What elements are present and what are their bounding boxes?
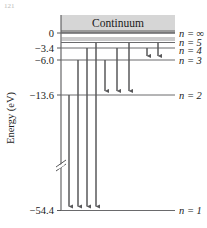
y-axis-title: Energy (eV) <box>5 92 17 144</box>
level-label-n-3: n = 3 <box>179 55 202 66</box>
level-label-n-2: n = 2 <box>179 90 203 101</box>
tick-label-0: 0 <box>49 28 54 39</box>
axis-ticks <box>57 33 61 211</box>
transition-arrows <box>69 43 158 207</box>
tick-label-minus-54-4: −54.4 <box>30 205 55 216</box>
tick-label-minus-6-0: −6.0 <box>35 55 54 66</box>
diagram-canvas: 121 Continuum <box>0 0 207 228</box>
tick-label-minus-3-4: −3.4 <box>35 43 55 54</box>
continuum-label: Continuum <box>92 17 144 29</box>
energy-level-diagram: 121 Continuum <box>0 0 207 228</box>
tick-label-minus-13-6: −13.6 <box>30 90 54 101</box>
page-corner-mark: 121 <box>4 2 15 10</box>
level-label-n-1: n = 1 <box>179 205 202 216</box>
